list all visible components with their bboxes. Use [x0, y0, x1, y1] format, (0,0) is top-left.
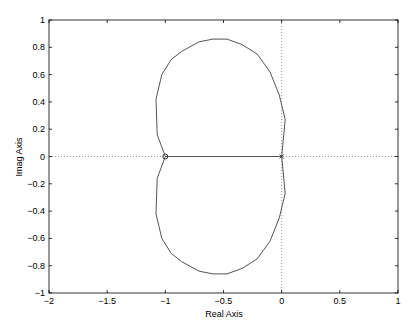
plot-area	[49, 20, 398, 293]
y-tick-label: 0	[40, 152, 45, 162]
x-tick-label: 1	[395, 296, 400, 306]
x-tick-label: −1.5	[98, 296, 116, 306]
x-tick-label: −2	[44, 296, 54, 306]
y-tick-label: −0.2	[27, 179, 45, 189]
root-locus-figure: −2−1.5−1−0.500.5110.80.60.40.20−0.2−0.4−…	[0, 0, 418, 331]
y-tick-label: 0.6	[32, 70, 45, 80]
y-tick-label: 1	[40, 15, 45, 25]
y-tick-label: −0.4	[27, 206, 45, 216]
x-axis-label: Real Axis	[205, 309, 243, 319]
y-tick-label: −0.6	[27, 233, 45, 243]
y-tick-label: −1	[35, 288, 45, 298]
y-tick-label: 0.4	[32, 97, 45, 107]
x-tick-label: 0	[279, 296, 284, 306]
y-tick-label: −0.8	[27, 261, 45, 271]
series-locus-upper	[156, 39, 285, 156]
x-tick-label: −0.5	[215, 296, 233, 306]
axes: −2−1.5−1−0.500.5110.80.60.40.20−0.2−0.4−…	[27, 15, 400, 306]
x-tick-label: −1	[160, 296, 170, 306]
series-locus-lower	[156, 157, 285, 274]
y-tick-label: 0.8	[32, 42, 45, 52]
y-axis-label: Imag Axis	[14, 137, 24, 177]
x-tick-label: 0.5	[334, 296, 347, 306]
y-tick-label: 0.2	[32, 124, 45, 134]
